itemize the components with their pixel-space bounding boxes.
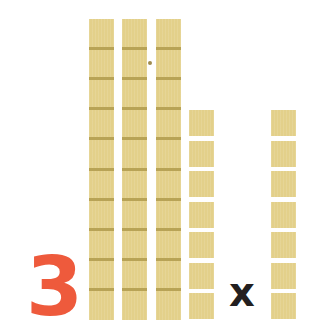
rod-unit-divider xyxy=(156,168,181,171)
rod-unit-divider xyxy=(89,77,114,80)
unit-cube xyxy=(271,293,296,319)
rod-unit-divider xyxy=(89,228,114,231)
rod-unit-divider xyxy=(89,47,114,50)
rod-unit-divider xyxy=(122,258,147,261)
rod-unit-divider xyxy=(89,107,114,110)
unit-cube xyxy=(189,110,214,136)
unit-cube xyxy=(189,263,214,289)
rod-unit-divider xyxy=(122,288,147,291)
rod-unit-divider xyxy=(156,198,181,201)
rod-unit-divider xyxy=(122,228,147,231)
tens-rod-2 xyxy=(122,19,147,320)
rod-unit-divider xyxy=(156,228,181,231)
rod-unit-divider xyxy=(89,258,114,261)
unit-cube xyxy=(271,110,296,136)
unit-cube xyxy=(271,202,296,228)
rod-unit-divider xyxy=(122,107,147,110)
rod-unit-divider xyxy=(156,258,181,261)
stray-dot xyxy=(148,61,152,65)
rod-unit-divider xyxy=(122,47,147,50)
rod-unit-divider xyxy=(89,168,114,171)
rod-unit-divider xyxy=(89,137,114,140)
rod-unit-divider xyxy=(156,77,181,80)
rod-unit-divider xyxy=(122,198,147,201)
rod-unit-divider xyxy=(122,168,147,171)
rod-unit-divider xyxy=(89,198,114,201)
base-ten-blocks-diagram: 3 x xyxy=(0,0,336,329)
unit-cube xyxy=(189,232,214,258)
tens-rod-3 xyxy=(156,19,181,320)
tens-rod-1 xyxy=(89,19,114,320)
rod-unit-divider xyxy=(156,47,181,50)
rod-unit-divider xyxy=(122,137,147,140)
rod-unit-divider xyxy=(89,288,114,291)
multiply-sign: x xyxy=(229,272,255,312)
rod-unit-divider xyxy=(156,288,181,291)
unit-cube xyxy=(189,171,214,197)
unit-cube xyxy=(189,141,214,167)
rod-unit-divider xyxy=(122,77,147,80)
unit-cube xyxy=(271,141,296,167)
unit-cube xyxy=(189,202,214,228)
unit-cube xyxy=(271,232,296,258)
rod-unit-divider xyxy=(156,107,181,110)
multiplier-numeral: 3 xyxy=(26,246,83,328)
unit-cube xyxy=(271,171,296,197)
unit-cube xyxy=(271,263,296,289)
rod-unit-divider xyxy=(156,137,181,140)
unit-cube xyxy=(189,293,214,319)
